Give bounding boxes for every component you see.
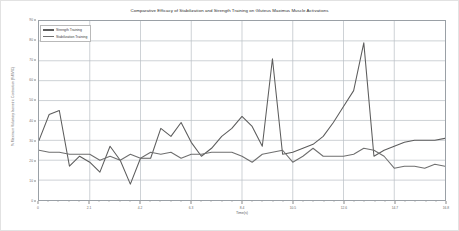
data-series-layer [39,21,445,200]
x-tick-minor-mark [48,201,49,202]
x-tick-minor-mark [333,201,334,202]
x-tick-minor-mark [109,201,110,202]
y-tick-label: 90 [29,18,33,22]
series-line [39,148,445,168]
x-tick-label: 2.1 [87,206,92,210]
x-tick-minor-mark [78,201,79,202]
y-tick-label: 40 [29,119,33,123]
legend-item[interactable]: Strength Training [43,28,87,32]
x-tick-mark [38,201,39,204]
series-line [39,43,445,184]
chart-legend: Strength TrainingStabilization Training [40,25,91,42]
x-tick-minor-mark [221,201,222,202]
x-tick-minor-mark [364,201,365,202]
y-tick-mark [34,20,36,21]
x-tick-minor-mark [99,201,100,202]
legend-swatch-icon [43,36,54,38]
chart-figure: Comparative Efficacy of Stabilization an… [0,0,459,231]
y-tick-label: 70 [29,58,33,62]
x-tick-minor-mark [313,201,314,202]
x-tick-label: 14.7 [392,206,398,210]
x-tick-minor-mark [262,201,263,202]
y-axis-label: % Maximum Voluntary Isometric Contractio… [11,86,15,146]
y-tick-mark [34,120,36,121]
x-tick-minor-mark [150,201,151,202]
x-tick-mark [395,201,396,204]
x-tick-minor-mark [405,201,406,202]
x-axis-label: Time(s) [38,211,446,216]
legend-item-label: Strength Training [56,28,82,32]
legend-swatch-icon [43,29,54,31]
x-tick-label: 8.4 [240,206,245,210]
x-tick-mark [89,201,90,204]
x-tick-minor-mark [170,201,171,202]
x-tick-minor-mark [272,201,273,202]
x-tick-label: 6.3 [189,206,194,210]
y-tick-mark [34,140,36,141]
y-tick-label: 60 [29,78,33,82]
x-tick-minor-mark [354,201,355,202]
x-tick-minor-mark [68,201,69,202]
x-tick-mark [293,201,294,204]
x-tick-minor-mark [180,201,181,202]
x-tick-mark [191,201,192,204]
y-tick-mark [34,100,36,101]
x-tick-minor-mark [201,201,202,202]
x-tick-minor-mark [384,201,385,202]
y-tick-label: 80 [29,38,33,42]
x-tick-minor-mark [211,201,212,202]
x-tick-minor-mark [435,201,436,202]
x-tick-mark [344,201,345,204]
y-tick-label: 30 [29,139,33,143]
y-tick-label: 50 [29,98,33,102]
y-tick-mark [34,160,36,161]
y-tick-mark [34,201,36,202]
x-tick-minor-mark [374,201,375,202]
x-tick-minor-mark [415,201,416,202]
y-tick-mark [34,40,36,41]
x-tick-label: 4.2 [138,206,143,210]
legend-item[interactable]: Stabilization Training [43,35,87,39]
x-tick-mark [242,201,243,204]
x-tick-minor-mark [303,201,304,202]
x-tick-mark [446,201,447,204]
x-tick-mark [140,201,141,204]
x-tick-label: 16.8 [443,206,449,210]
x-tick-minor-mark [231,201,232,202]
x-tick-minor-mark [58,201,59,202]
x-tick-minor-mark [252,201,253,202]
y-axis: 0102030405060708090 [1,20,36,201]
x-tick-minor-mark [425,201,426,202]
x-tick-label: 0 [37,206,39,210]
x-tick-minor-mark [160,201,161,202]
chart-title: Comparative Efficacy of Stabilization an… [1,7,458,14]
x-tick-minor-mark [323,201,324,202]
y-tick-label: 20 [29,159,33,163]
y-tick-mark [34,180,36,181]
legend-item-label: Stabilization Training [56,35,87,39]
y-tick-mark [34,60,36,61]
x-tick-minor-mark [282,201,283,202]
x-tick-minor-mark [119,201,120,202]
y-tick-mark [34,80,36,81]
y-tick-label: 0 [31,199,33,203]
plot-area [38,20,446,201]
x-tick-label: 10.5 [290,206,296,210]
x-tick-label: 12.6 [341,206,347,210]
x-tick-minor-mark [129,201,130,202]
y-tick-label: 10 [29,179,33,183]
